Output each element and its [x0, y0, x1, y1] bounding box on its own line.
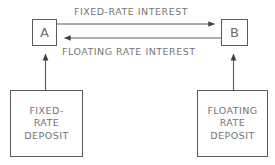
node-counterparty-b: B — [221, 19, 248, 46]
node-fixed-rate-deposit: FIXED- RATE DEPOSIT — [10, 90, 83, 157]
fixed-rate-deposit-line-2: RATE — [34, 117, 60, 130]
node-counterparty-a: A — [32, 19, 57, 46]
edge-label-fixed-rate-interest: FIXED-RATE INTEREST — [74, 7, 188, 17]
node-floating-rate-deposit: FLOATING RATE DEPOSIT — [197, 90, 268, 157]
interest-rate-swap-diagram: A B FIXED- RATE DEPOSIT FLOATING RATE DE… — [0, 0, 275, 165]
fixed-rate-deposit-line-1: FIXED- — [29, 105, 63, 118]
fixed-rate-deposit-line-3: DEPOSIT — [24, 130, 68, 143]
edge-label-floating-rate-interest: FLOATING RATE INTEREST — [62, 47, 196, 57]
floating-rate-deposit-line-3: DEPOSIT — [210, 130, 254, 143]
floating-rate-deposit-line-1: FLOATING — [207, 105, 257, 118]
floating-rate-deposit-line-2: RATE — [220, 117, 246, 130]
node-counterparty-a-label: A — [40, 26, 49, 39]
node-counterparty-b-label: B — [230, 26, 239, 39]
